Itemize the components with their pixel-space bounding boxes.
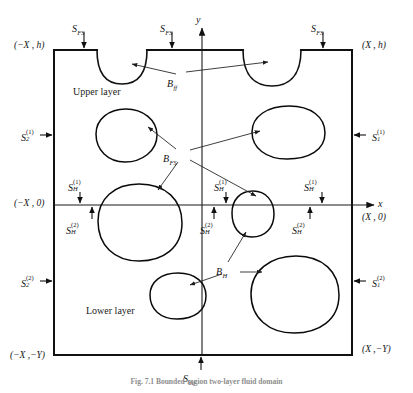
bff-leader-left: [132, 64, 176, 74]
lower-right-bubble: [251, 256, 339, 333]
label-free-surface-mid: SFS: [160, 19, 173, 36]
upper-layer-label: Upper layer: [73, 86, 120, 97]
bfs-leader-lowerleft: [158, 162, 178, 190]
label-interface-center-upper: S(1)H: [214, 178, 230, 194]
upper-right-bubble: [252, 106, 325, 159]
label-free-surface-right: SFS: [311, 19, 324, 36]
lower-layer-label: Lower layer: [86, 305, 135, 316]
bfs-leader-upperright: [190, 131, 260, 150]
lower-left-bubble: [150, 273, 206, 319]
corner-top-left: (−X , h): [14, 41, 44, 51]
corner-mid-right: (X , 0): [362, 213, 386, 223]
x-axis-label: x: [378, 198, 382, 209]
upper-left-bubble: [96, 109, 157, 162]
label-interior-bubbles: BFS: [163, 149, 177, 166]
label-interface-right-lower: S(2)H: [292, 221, 308, 237]
corner-bottom-left: (−X ,−Y): [10, 351, 45, 361]
label-interface-center-lower: S(2)H: [200, 221, 216, 237]
y-axis-label: y: [196, 14, 200, 25]
label-left-lower-boundary: S(2)2: [21, 274, 37, 290]
label-free-surface-bubbles: Bff: [167, 74, 177, 91]
label-interface-left-lower: S(2)H: [66, 221, 82, 237]
corner-mid-left: (−X , 0): [14, 199, 44, 209]
interface-left-bubble: [98, 184, 182, 261]
label-interface-left-upper: S(1)H: [68, 178, 84, 194]
corner-top-right: (X , h): [362, 41, 386, 51]
label-right-lower-boundary: S(2)1: [372, 274, 388, 290]
bh-leader-up: [228, 232, 246, 262]
bff-leader-right: [186, 62, 268, 72]
corner-bottom-right: (X ,−Y): [362, 345, 391, 355]
interface-center-bubble: [232, 191, 274, 237]
label-left-upper-boundary: S(1)2: [21, 128, 37, 144]
bubble-group: [96, 106, 339, 333]
bfs-leader-upperleft: [148, 127, 176, 149]
figure-container: x y Upper layer Lower layer (−X , h) (X …: [0, 0, 413, 393]
label-interface-right-upper: S(1)H: [304, 178, 320, 194]
label-right-upper-boundary: S(1)1: [372, 128, 388, 144]
label-interface-bubbles: BH: [216, 262, 227, 279]
figure-caption: Fig. 7.1 Bounded-region two-layer fluid …: [0, 377, 413, 386]
free-surface-line: [54, 50, 352, 86]
label-free-surface-left: SFS: [72, 19, 85, 36]
figure-drawing: [0, 0, 413, 393]
